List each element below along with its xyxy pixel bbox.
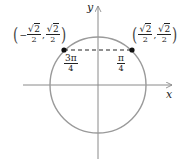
coord-y-fraction: √2 2 (46, 25, 60, 44)
right-paren: ) (61, 25, 66, 44)
coord-x-fraction: √2 2 (27, 25, 41, 44)
comma: , (153, 30, 156, 40)
point-3pi-4-coords: ( − √2 2 , √2 2 ) (12, 25, 67, 44)
sqrt-symbol: √ (28, 24, 34, 34)
point-3pi-4-dot (61, 47, 66, 52)
y-axis-label: y (87, 1, 93, 14)
point-pi-4-dot (129, 47, 134, 52)
negative-sign: − (19, 30, 27, 40)
left-paren: ( (13, 25, 18, 44)
right-paren: ) (172, 25, 177, 44)
coord-y-fraction: √2 2 (157, 25, 171, 44)
comma: , (42, 30, 45, 40)
angle-pi-4-label: π 4 (117, 54, 125, 73)
sqrt-symbol: √ (47, 24, 53, 34)
x-axis-label: x (166, 88, 172, 101)
angle-3pi-4-label: 3π 4 (64, 54, 78, 73)
point-pi-4-coords: ( √2 2 , √2 2 ) (131, 25, 179, 44)
coord-x-fraction: √2 2 (138, 25, 152, 44)
left-paren: ( (132, 25, 137, 44)
